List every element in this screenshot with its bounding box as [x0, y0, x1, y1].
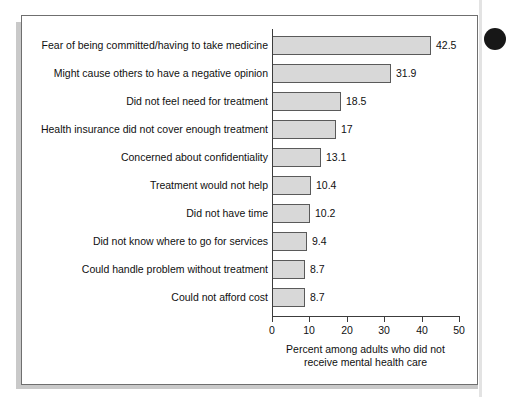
bar [272, 204, 310, 223]
category-label: Did not have time [28, 204, 268, 223]
bar [272, 36, 431, 55]
category-label: Did not know where to go for services [28, 232, 268, 251]
bar-row: Treatment would not help10.4 [22, 176, 479, 195]
category-label: Could not afford cost [28, 288, 268, 307]
x-axis-line [272, 316, 460, 317]
bar-value-label: 17 [341, 120, 353, 139]
category-label: Health insurance did not cover enough tr… [28, 120, 268, 139]
bar-value-label: 13.1 [326, 148, 346, 167]
bar [272, 92, 341, 111]
bar-row: Did not have time10.2 [22, 204, 479, 223]
x-axis-tick-label: 10 [294, 324, 324, 336]
bar-row: Did not feel need for treatment18.5 [22, 92, 479, 111]
x-axis-tick [347, 317, 348, 322]
y-axis-line [272, 29, 273, 316]
bar-row: Concerned about confidentiality13.1 [22, 148, 479, 167]
category-label: Treatment would not help [28, 176, 268, 195]
x-axis-tick-label: 40 [407, 324, 437, 336]
bar [272, 64, 391, 83]
bar-value-label: 10.4 [316, 176, 336, 195]
bar-value-label: 18.5 [346, 92, 366, 111]
bar-row: Could handle problem without treatment8.… [22, 260, 479, 279]
x-axis-title-line-1: Percent among adults who did not [272, 343, 459, 356]
x-axis-tick [272, 317, 273, 322]
category-label: Might cause others to have a negative op… [28, 64, 268, 83]
x-axis-tick-label: 20 [332, 324, 362, 336]
bar-value-label: 8.7 [310, 260, 325, 279]
bar-row: Health insurance did not cover enough tr… [22, 120, 479, 139]
bar [272, 232, 307, 251]
x-axis-title-line-2: receive mental health care [272, 356, 459, 369]
category-label: Did not feel need for treatment [28, 92, 268, 111]
x-axis-tick [459, 317, 460, 322]
bar [272, 120, 336, 139]
x-axis-tick [384, 317, 385, 322]
category-label: Concerned about confidentiality [28, 148, 268, 167]
category-label: Could handle problem without treatment [28, 260, 268, 279]
bar [272, 176, 311, 195]
bar-value-label: 10.2 [315, 204, 335, 223]
bar-chart: Fear of being committed/having to take m… [22, 16, 479, 386]
bar-value-label: 8.7 [310, 288, 325, 307]
bar-row: Might cause others to have a negative op… [22, 64, 479, 83]
bar-value-label: 42.5 [436, 36, 456, 55]
x-axis-tick-label: 0 [257, 324, 287, 336]
x-axis-tick-label: 30 [369, 324, 399, 336]
x-axis-tick [422, 317, 423, 322]
bar-row: Could not afford cost8.7 [22, 288, 479, 307]
bar-value-label: 9.4 [312, 232, 327, 251]
bar-row: Fear of being committed/having to take m… [22, 36, 479, 55]
category-label: Fear of being committed/having to take m… [28, 36, 268, 55]
page-punch-dot-icon [484, 28, 506, 50]
bar-value-label: 31.9 [396, 64, 416, 83]
page-edge-strip [479, 0, 482, 397]
figure-frame: Fear of being committed/having to take m… [21, 15, 478, 385]
x-axis-tick [309, 317, 310, 322]
x-axis-title: Percent among adults who did not receive… [272, 343, 459, 369]
x-axis-tick-label: 50 [444, 324, 474, 336]
bar [272, 260, 305, 279]
bar [272, 288, 305, 307]
bar-row: Did not know where to go for services9.4 [22, 232, 479, 251]
bar [272, 148, 321, 167]
